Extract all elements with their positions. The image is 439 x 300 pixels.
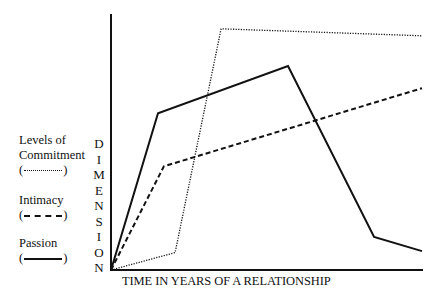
legend-item-commitment: Levels of Commitment ( ): [19, 133, 85, 178]
commitment-line: [111, 29, 422, 270]
legend-item-intimacy: Intimacy ( ): [19, 193, 67, 223]
dashed-line-icon: [24, 215, 62, 217]
dotted-line-icon: [24, 170, 62, 171]
solid-line-icon: [24, 258, 62, 260]
legend-label: Passion: [19, 236, 67, 251]
legend-label: Intimacy: [19, 193, 67, 208]
legend-label: Commitment: [19, 148, 85, 163]
legend-item-passion: Passion ( ): [19, 236, 67, 266]
x-axis-label: TIME IN YEARS OF A RELATIONSHIP: [122, 274, 331, 289]
y-axis-label: D I M E N S I O N: [92, 136, 106, 276]
legend-swatch: ( ): [19, 163, 85, 178]
passion-line: [111, 66, 422, 270]
legend-label: Levels of: [19, 133, 85, 148]
legend-swatch: ( ): [19, 251, 67, 266]
legend-swatch: ( ): [19, 208, 67, 223]
